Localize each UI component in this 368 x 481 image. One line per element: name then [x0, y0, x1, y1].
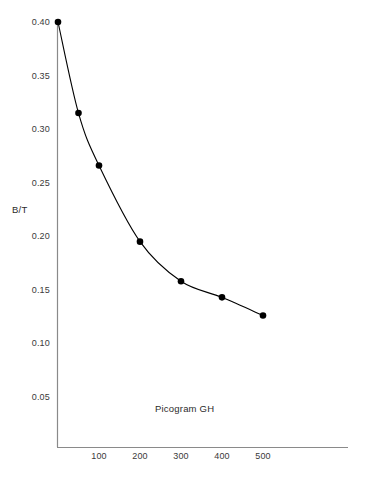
y-tick-label: 0.15	[0, 285, 50, 294]
axes-group	[57, 20, 348, 448]
x-tick-label: 500	[255, 452, 271, 461]
y-tick-label: 0.25	[0, 178, 50, 187]
data-point	[96, 162, 103, 169]
x-tick-label: 200	[132, 452, 148, 461]
data-series-group	[55, 19, 267, 319]
data-point	[137, 238, 144, 245]
y-tick-label: 0.10	[0, 339, 50, 348]
y-tick-label: 0.20	[0, 232, 50, 241]
data-point	[178, 278, 185, 285]
y-tick-label: 0.05	[0, 393, 50, 402]
x-tick-label: 300	[173, 452, 189, 461]
y-tick-label: 0.30	[0, 125, 50, 134]
series-line	[58, 22, 263, 316]
data-point	[260, 312, 267, 319]
data-point	[75, 110, 82, 117]
data-point	[219, 294, 226, 301]
y-tick-label: 0.35	[0, 71, 50, 80]
chart-figure: B/T Picogram GH 0.400.350.300.250.200.15…	[0, 0, 368, 481]
x-tick-label: 400	[214, 452, 230, 461]
y-tick-label: 0.40	[0, 18, 50, 27]
data-point	[55, 19, 62, 26]
chart-annotation: Picogram GH	[155, 404, 214, 414]
y-axis-title: B/T	[12, 205, 27, 215]
series-markers	[55, 19, 267, 319]
x-tick-label: 100	[91, 452, 107, 461]
